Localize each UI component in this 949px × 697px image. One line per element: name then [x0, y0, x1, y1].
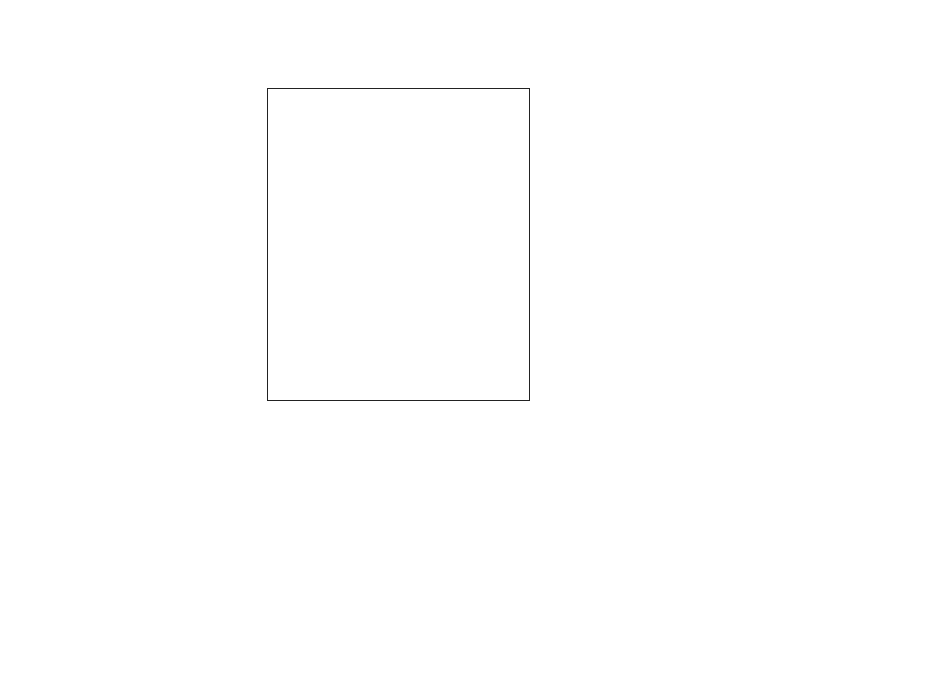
dendrogram-lines — [0, 0, 949, 697]
